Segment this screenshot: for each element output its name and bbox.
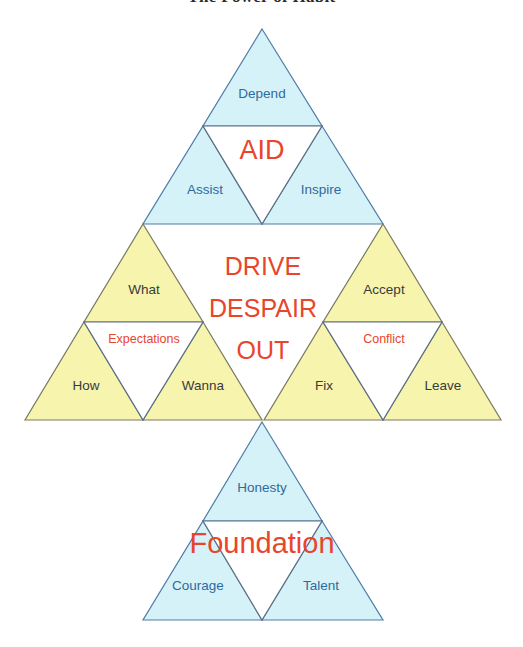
triangle-depend[interactable]: [203, 29, 322, 126]
label-inspire: Inspire: [301, 182, 342, 197]
label-leave: Leave: [425, 378, 462, 393]
label-depend: Depend: [238, 86, 285, 101]
label-conflict: Conflict: [363, 332, 405, 346]
triangle-what[interactable]: [84, 224, 203, 322]
group-aid[interactable]: Depend Assist Inspire AID: [143, 29, 383, 224]
label-talent: Talent: [303, 578, 339, 593]
label-aid: AID: [239, 135, 284, 165]
label-foundation: Foundation: [189, 527, 334, 559]
core-message-line-3: OUT: [237, 336, 290, 364]
label-courage: Courage: [172, 578, 224, 593]
core-message-line-2: DESPAIR: [209, 294, 317, 322]
core-message: DRIVE DESPAIR OUT: [209, 252, 317, 364]
core-message-line-1: DRIVE: [225, 252, 301, 280]
triangle-accept[interactable]: [323, 224, 442, 322]
group-foundation[interactable]: Honesty Courage Talent Foundation: [143, 422, 383, 620]
label-fix: Fix: [315, 378, 333, 393]
label-accept: Accept: [363, 282, 405, 297]
label-assist: Assist: [187, 182, 223, 197]
label-wanna: Wanna: [182, 378, 225, 393]
label-how: How: [72, 378, 99, 393]
triangle-honesty[interactable]: [203, 422, 322, 521]
label-what: What: [128, 282, 160, 297]
triangle-framework-diagram: Depend Assist Inspire AID What How Wanna…: [0, 0, 523, 647]
diagram-canvas: The Power of Habit Depend Assist Inspire…: [0, 0, 523, 647]
label-expectations: Expectations: [108, 332, 180, 346]
label-honesty: Honesty: [237, 480, 287, 495]
